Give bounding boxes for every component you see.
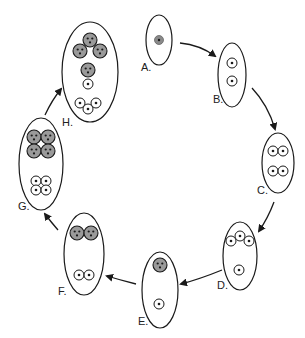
arrow-b-to-c: [252, 88, 275, 129]
stage-b-label: B.: [213, 93, 223, 105]
stage-d: D.: [217, 222, 257, 291]
stage-g-label: G.: [18, 200, 30, 212]
stage-c: C.: [257, 133, 294, 196]
arrow-c-to-d: [259, 202, 274, 231]
arrow-d-to-e: [181, 270, 222, 284]
stage-f-label: F.: [58, 285, 67, 297]
stage-a-label: A.: [141, 61, 151, 73]
stage-c-label: C.: [257, 184, 268, 196]
stage-b: B.: [213, 43, 246, 107]
stage-g: G.: [18, 118, 63, 212]
arrow-a-to-b: [180, 43, 215, 56]
stage-e-label: E.: [138, 315, 148, 327]
stage-h: H.: [62, 22, 118, 128]
stage-f: F.: [58, 213, 104, 297]
life-cycle-diagram: A. B. C. D. E. F.: [0, 0, 305, 338]
stage-a: A.: [141, 15, 172, 73]
stage-d-label: D.: [217, 279, 228, 291]
arrow-e-to-f: [107, 276, 136, 284]
arrow-g-to-h: [45, 89, 61, 115]
arrow-f-to-g: [45, 214, 58, 230]
stage-h-label: H.: [62, 116, 73, 128]
stage-e: E.: [138, 252, 178, 328]
